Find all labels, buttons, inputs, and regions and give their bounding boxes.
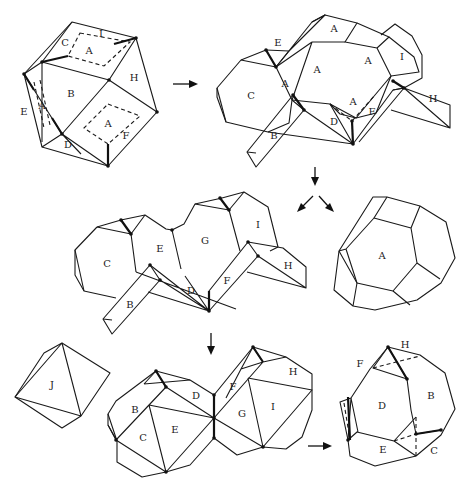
face-label: A [280, 78, 289, 89]
face-label: H [289, 366, 298, 377]
face-label: A [329, 23, 338, 34]
face-label: D [330, 116, 338, 127]
face-label: E [20, 106, 27, 117]
panel-refolded: F H D B E C [340, 339, 455, 467]
face-label: J [49, 379, 54, 390]
face-label: E [274, 37, 281, 48]
face-label: B [131, 404, 138, 415]
face-label: D [64, 139, 72, 150]
face-label: I [256, 219, 260, 230]
face-label: B [67, 88, 74, 99]
face-label: G [238, 408, 246, 419]
face-label: C [103, 258, 111, 269]
face-label: E [379, 444, 386, 455]
face-label: A [312, 64, 321, 75]
face-label: D [192, 390, 200, 401]
arrow-split-icon [297, 167, 334, 212]
face-label: D [378, 400, 386, 411]
face-label: H [429, 93, 438, 104]
face-label: G [201, 235, 209, 246]
diagram-canvas: C A I B H E A A F D [0, 0, 470, 491]
panel-net: C E G I H B D F [75, 192, 306, 334]
face-label: H [284, 260, 293, 271]
face-label: D [187, 285, 195, 296]
face-label: H [401, 339, 410, 350]
face-label: C [247, 90, 255, 101]
face-label: F [123, 130, 130, 141]
face-label: I [400, 51, 404, 62]
face-label: I [99, 28, 103, 39]
face-label: A [103, 118, 112, 129]
face-label: F [224, 275, 231, 286]
arrow-right-icon [173, 80, 198, 88]
face-label: A [363, 55, 372, 66]
face-label: F [230, 381, 237, 392]
panel-unfolded-strip: E A A A I C A A H F D B [217, 15, 450, 167]
face-label: F [357, 358, 364, 369]
face-label: A [37, 100, 46, 111]
face-label: B [270, 130, 277, 141]
face-label: A [348, 96, 357, 107]
face-label: F [369, 106, 376, 117]
panel-two-pieces: B D F H C E G I [108, 345, 312, 477]
face-label: E [171, 424, 178, 435]
face-label: A [84, 45, 93, 56]
panel-solid-a: A [334, 197, 455, 310]
arrow-down-icon [207, 333, 215, 355]
face-label: E [156, 243, 163, 254]
face-label: B [427, 390, 434, 401]
face-label: I [271, 401, 275, 412]
face-label: C [430, 445, 438, 456]
face-label: B [126, 299, 133, 310]
face-label: A [377, 250, 386, 261]
face-label: H [130, 72, 139, 83]
face-label: C [139, 432, 147, 443]
face-label: C [61, 37, 69, 48]
panel-octahedron-j: J [15, 343, 110, 428]
arrow-right-icon [308, 442, 332, 450]
panel-folded-polyhedron: C A I B H E A A F D [20, 22, 158, 168]
